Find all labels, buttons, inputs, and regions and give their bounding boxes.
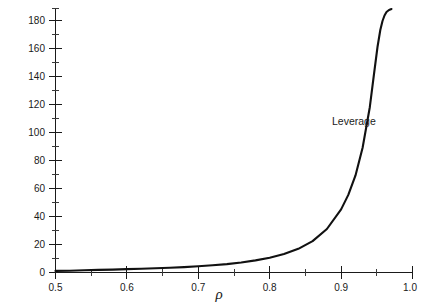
leverage-line-chart: 0 20 40 60 80 100 120 140 160 180: [0, 0, 429, 304]
x-tick-label-0p8: 0.8: [263, 282, 277, 293]
y-tick-label-100: 100: [28, 127, 45, 138]
leverage-series-label: Leverage: [332, 115, 376, 127]
x-axis-group: 0.5 0.6 0.7 0.8 0.9 1.0 ρ: [49, 266, 418, 302]
x-tick-label-0p5: 0.5: [49, 282, 63, 293]
y-tick-label-180: 180: [28, 15, 45, 26]
y-axis-tick-labels: 0 20 40 60 80 100 120 140 160 180: [28, 15, 45, 278]
data-series-group: [56, 9, 392, 271]
leverage-curve: [56, 9, 392, 271]
x-axis-title-rho: ρ: [214, 286, 222, 302]
y-tick-label-80: 80: [34, 155, 46, 166]
y-axis-group: 0 20 40 60 80 100 120 140 160 180: [28, 8, 62, 278]
x-tick-label-0p7: 0.7: [191, 282, 205, 293]
chart-figure: 0 20 40 60 80 100 120 140 160 180: [0, 0, 429, 304]
y-tick-label-160: 160: [28, 43, 45, 54]
x-axis-tick-labels: 0.5 0.6 0.7 0.8 0.9 1.0: [49, 282, 418, 293]
y-tick-label-40: 40: [34, 211, 46, 222]
x-tick-label-0p6: 0.6: [120, 282, 134, 293]
x-tick-label-1p0: 1.0: [403, 282, 417, 293]
y-tick-label-0: 0: [39, 267, 45, 278]
y-tick-label-120: 120: [28, 99, 45, 110]
y-tick-label-20: 20: [34, 239, 46, 250]
y-tick-label-60: 60: [34, 183, 46, 194]
y-tick-label-140: 140: [28, 71, 45, 82]
x-tick-label-0p9: 0.9: [334, 282, 348, 293]
